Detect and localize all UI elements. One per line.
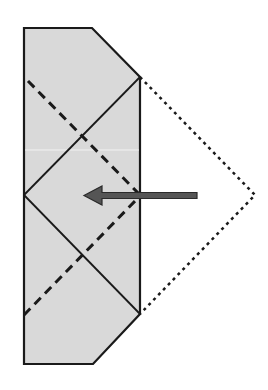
fold-diagram	[0, 0, 268, 390]
diagram-canvas	[0, 0, 268, 390]
